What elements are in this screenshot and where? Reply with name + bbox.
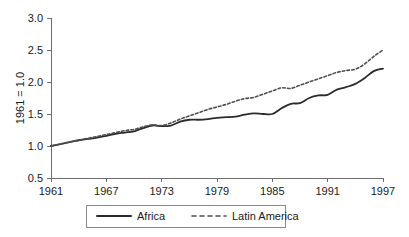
x-tick-label: 1961 — [39, 185, 63, 197]
legend-label-latin-america: Latin America — [232, 210, 300, 222]
x-tick-label: 1985 — [260, 185, 284, 197]
x-tick-label: 1973 — [149, 185, 173, 197]
y-axis: 3.02.52.01.51.00.5 — [28, 12, 51, 184]
y-tick-label: 2.0 — [28, 76, 43, 88]
line-chart: 1961 = 1.0 3.02.52.01.51.00.5 1961196719… — [0, 0, 409, 237]
series-line-latin-america — [51, 50, 383, 146]
legend: Africa Latin America — [86, 205, 300, 227]
y-tick-label: 3.0 — [28, 12, 43, 24]
y-tick-label: 1.5 — [28, 108, 43, 120]
x-tick-group: 1961196719731979198519911997 — [39, 178, 395, 197]
y-tick-label: 2.5 — [28, 44, 43, 56]
y-tick-label: 1.0 — [28, 140, 43, 152]
y-tick-label: 0.5 — [28, 172, 43, 184]
x-tick-label: 1967 — [94, 185, 118, 197]
y-axis-title-group: 1961 = 1.0 — [14, 72, 26, 124]
y-axis-title: 1961 = 1.0 — [14, 72, 26, 124]
legend-label-africa: Africa — [137, 210, 166, 222]
y-tick-group: 3.02.52.01.51.00.5 — [28, 12, 51, 184]
x-tick-label: 1997 — [371, 185, 395, 197]
series-group — [51, 50, 383, 146]
x-axis: 1961196719731979198519911997 — [39, 178, 395, 197]
x-tick-label: 1979 — [205, 185, 229, 197]
chart-container: 1961 = 1.0 3.02.52.01.51.00.5 1961196719… — [0, 0, 409, 237]
x-tick-label: 1991 — [315, 185, 339, 197]
